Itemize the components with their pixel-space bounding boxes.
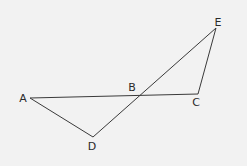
vertex-label-a: A xyxy=(19,92,27,105)
labels-group: A B C D E xyxy=(19,16,221,153)
vertex-label-d: D xyxy=(88,140,96,153)
vertex-label-c: C xyxy=(192,96,200,109)
vertex-label-b: B xyxy=(128,81,136,94)
segment-de xyxy=(93,28,216,137)
segment-ce xyxy=(198,28,216,94)
geometry-diagram: A B C D E xyxy=(0,0,247,166)
vertex-label-e: E xyxy=(215,16,222,29)
segment-ad xyxy=(30,98,93,137)
segments-group xyxy=(30,28,216,137)
segment-ac xyxy=(30,94,198,98)
